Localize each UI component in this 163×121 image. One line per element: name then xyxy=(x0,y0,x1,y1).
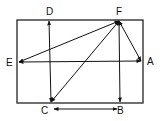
point-label-c: C xyxy=(41,105,48,116)
point-label-d: D xyxy=(46,6,53,17)
arrow-f-b xyxy=(119,21,120,102)
arrow-f-a xyxy=(119,21,141,61)
point-label-b: B xyxy=(117,105,124,116)
vector-diagram: ABCDEF xyxy=(0,0,163,121)
point-label-f: F xyxy=(116,6,122,17)
arrow-group xyxy=(19,21,141,109)
point-label-e: E xyxy=(6,57,13,68)
point-label-a: A xyxy=(147,56,154,67)
arrow-f-e xyxy=(19,21,119,62)
arrow-e-a xyxy=(19,61,141,62)
